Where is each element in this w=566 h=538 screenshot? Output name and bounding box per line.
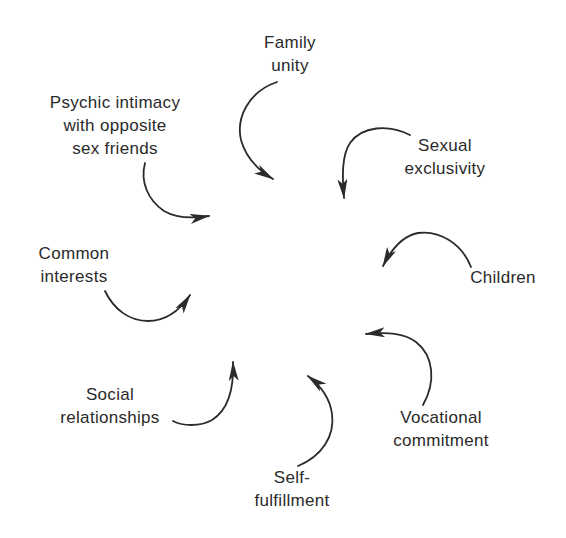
label-line: Sexual [392, 134, 498, 157]
label-line: exclusivity [392, 157, 498, 180]
label-line: Self- [240, 466, 344, 489]
pressure-diagram: Family unity Sexual exclusivity Children… [0, 0, 566, 538]
arrow-family-unity [240, 82, 277, 179]
label-social-relationships: Social relationships [44, 383, 176, 429]
arrow-vocational-commitment [366, 333, 431, 405]
label-self-fulfillment: Self- fulfillment [240, 466, 344, 512]
arrow-children [383, 233, 471, 267]
label-line: Children [458, 266, 548, 289]
arrow-psychic-intimacy [144, 163, 209, 218]
label-psychic-intimacy: Psychic intimacy with opposite sex frien… [30, 91, 200, 160]
label-line: interests [26, 265, 122, 288]
label-line: sex friends [30, 137, 200, 160]
arrow-social-relationships [173, 362, 233, 425]
label-line: commitment [383, 429, 499, 452]
label-line: Family [254, 31, 326, 54]
label-line: Social [44, 383, 176, 406]
label-common-interests: Common interests [26, 242, 122, 288]
label-line: fulfillment [240, 489, 344, 512]
label-line: relationships [44, 406, 176, 429]
label-family-unity: Family unity [254, 31, 326, 77]
label-line: Psychic intimacy [30, 91, 200, 114]
label-line: Common [26, 242, 122, 265]
label-line: with opposite [30, 114, 200, 137]
label-sexual-exclusivity: Sexual exclusivity [392, 134, 498, 180]
label-line: unity [254, 54, 326, 77]
arrow-self-fulfillment [298, 376, 332, 466]
label-children: Children [458, 266, 548, 289]
arrow-common-interests [105, 291, 190, 321]
label-vocational-commitment: Vocational commitment [383, 406, 499, 452]
label-line: Vocational [383, 406, 499, 429]
